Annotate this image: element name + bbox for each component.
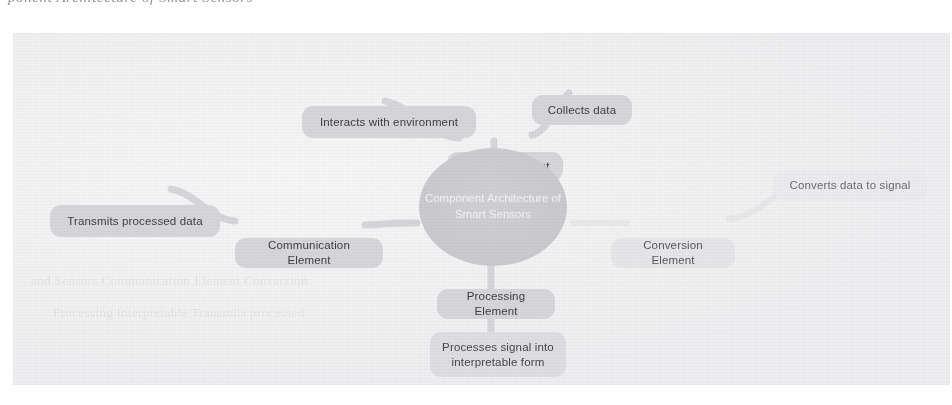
scanned-page: ponent Architecture of Smart Sensors and…	[0, 0, 952, 405]
node-processes-signal-into-interpretable-form[interactable]: Processes signal into interpretable form	[430, 332, 566, 377]
node-transmits-processed-data[interactable]: Transmits processed data	[50, 205, 220, 237]
node-collects-data[interactable]: Collects data	[532, 95, 632, 125]
page-top-text-bleed-label: ponent Architecture of Smart Sensors	[8, 0, 253, 6]
node-interacts-with-environment[interactable]: Interacts with environment	[302, 106, 476, 138]
node-communication-element[interactable]: Communication Element	[235, 238, 383, 268]
node-processing-element[interactable]: Processing Element	[437, 289, 555, 319]
page-top-text-bleed: ponent Architecture of Smart Sensors	[0, 0, 952, 24]
mind-map-figure: and Sensors Communication Element Conver…	[13, 33, 950, 385]
node-conversion-element[interactable]: Conversion Element	[611, 238, 735, 268]
node-central-component-architecture[interactable]: Component Architecture of Smart Sensors	[419, 148, 567, 266]
edge-center-to-communication	[365, 223, 417, 225]
node-converts-data-to-signal[interactable]: Converts data to signal	[773, 170, 927, 201]
